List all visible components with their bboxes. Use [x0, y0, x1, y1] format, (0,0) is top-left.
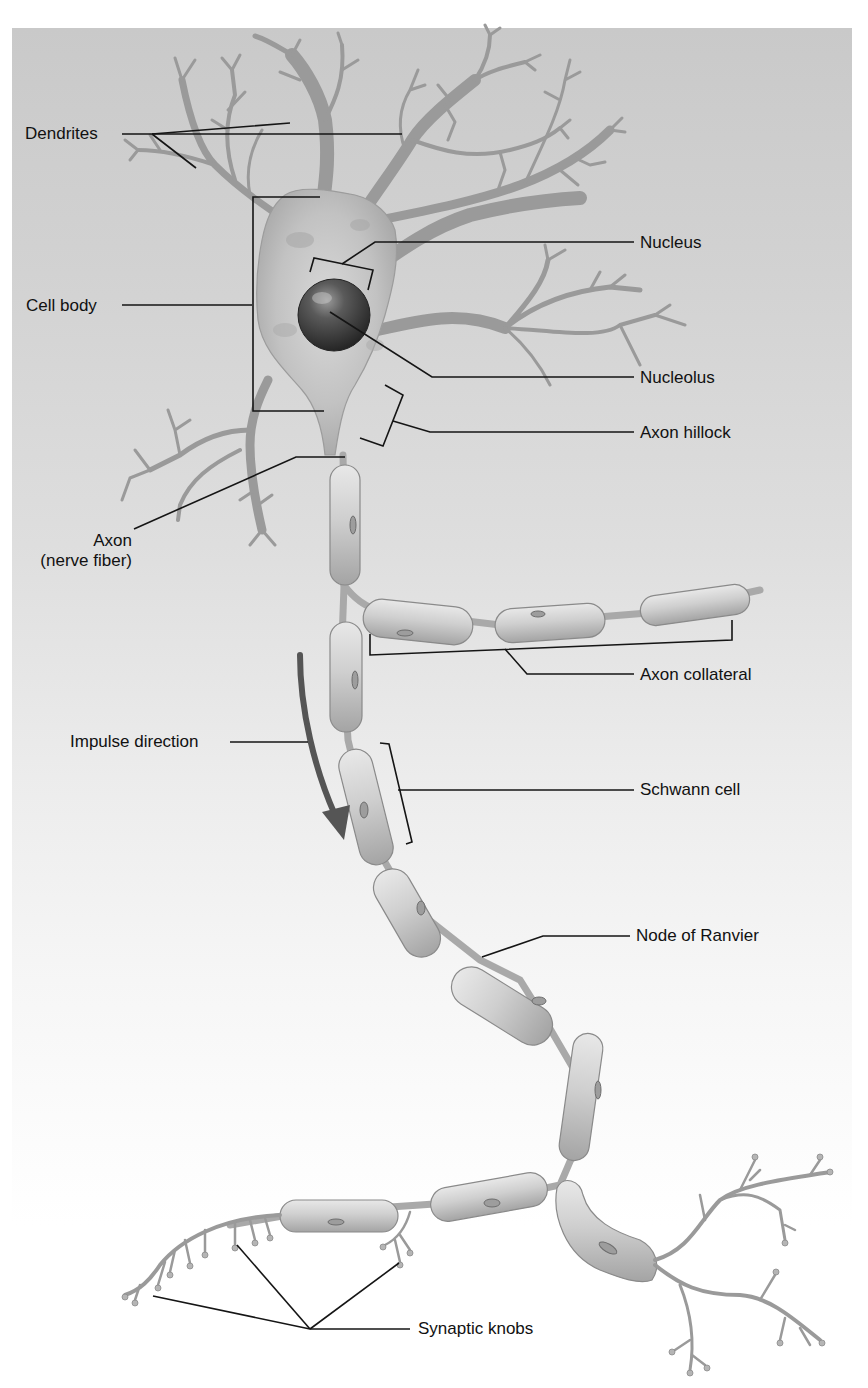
- label-axon-collateral: Axon collateral: [640, 665, 752, 685]
- label-dendrites: Dendrites: [25, 124, 98, 144]
- label-schwann-cell: Schwann cell: [640, 780, 740, 800]
- label-nucleolus: Nucleolus: [640, 368, 715, 388]
- right-dendrite-group: [372, 198, 685, 385]
- schwann-cells-main: [280, 465, 657, 1282]
- label-axon-line2: (nerve fiber): [20, 551, 132, 571]
- leader-axon: [134, 457, 345, 529]
- label-synaptic-knobs: Synaptic knobs: [418, 1319, 533, 1339]
- leader-axon-hillock-bracket: [360, 385, 403, 446]
- axon-core: [230, 455, 580, 1225]
- axon-collateral-group: [361, 582, 760, 646]
- cell-body: [257, 189, 397, 455]
- label-nucleus: Nucleus: [640, 233, 701, 253]
- leader-dendrites: [122, 123, 290, 134]
- label-axon-line1: Axon: [20, 531, 132, 551]
- leader-axon-collateral: [505, 649, 634, 674]
- leader-axon-hillock: [393, 421, 634, 432]
- label-axon: Axon (nerve fiber): [20, 531, 132, 571]
- neuron-diagram: [0, 0, 868, 1388]
- leader-synaptic-c: [310, 1263, 399, 1329]
- leader-lines: [122, 123, 732, 1329]
- label-axon-hillock: Axon hillock: [640, 423, 731, 443]
- leader-node-of-ranvier: [482, 936, 630, 957]
- label-impulse-direction: Impulse direction: [70, 732, 199, 752]
- lower-left-dendrite-group: [122, 380, 275, 545]
- label-node-of-ranvier: Node of Ranvier: [636, 926, 759, 946]
- label-cell-body: Cell body: [26, 296, 97, 316]
